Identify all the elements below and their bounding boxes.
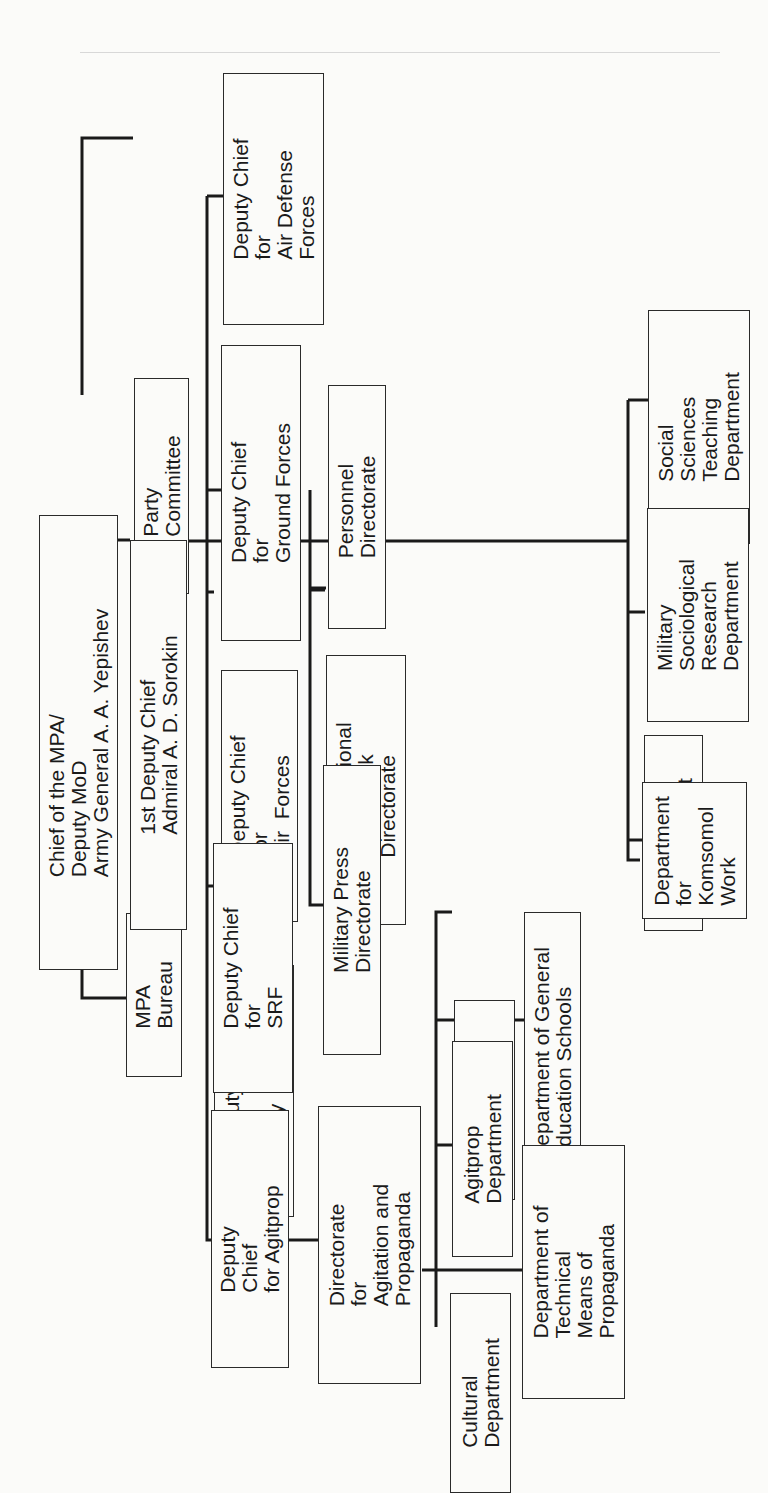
node-label: Deputy Chief for Agitprop xyxy=(217,1185,283,1292)
node-dc-srf: Deputy Chief for SRF xyxy=(213,843,293,1093)
node-mpa-bureau: MPA Bureau xyxy=(126,913,182,1077)
node-label: Chief of the MPA/ Deputy MoD Army Genera… xyxy=(46,608,112,877)
node-label: Deputy Chief for Air Forces xyxy=(227,735,293,856)
node-cultural: Cultural Department xyxy=(450,1293,511,1493)
node-dc-air-defense: Deputy Chief for Air Defense Forces xyxy=(223,73,324,325)
node-komsomol: Department for Komsomol Work xyxy=(642,782,747,919)
node-label: Party Committee xyxy=(140,435,184,537)
node-sociological: Military Sociological Research Departmen… xyxy=(647,508,749,722)
node-label: Department of General Education Schools xyxy=(531,947,575,1161)
node-dc-agitprop: Deputy Chief for Agitprop xyxy=(211,1110,289,1368)
node-label: Cultural Department xyxy=(459,1338,503,1448)
node-label: Deputy Chief for Air Defense Forces xyxy=(230,138,318,259)
node-label: 1st Deputy Chief Admiral A. D. Sorokin xyxy=(137,635,181,835)
node-dir-agitprop: Directorate for Agitation and Propaganda xyxy=(318,1106,421,1384)
node-first-deputy: 1st Deputy Chief Admiral A. D. Sorokin xyxy=(130,540,187,930)
node-dc-ground: Deputy Chief for Ground Forces xyxy=(221,345,301,641)
node-label: Agitprop Department xyxy=(461,1094,505,1204)
node-military-press: Military Press Directorate xyxy=(323,765,381,1055)
node-label: Department for Komsomol Work xyxy=(651,796,739,906)
node-technical-means: Department of Technical Means of Propaga… xyxy=(522,1145,625,1399)
node-label: Directorate for Agitation and Propaganda xyxy=(326,1184,414,1307)
node-label: Military Press Directorate xyxy=(330,847,374,973)
node-chief: Chief of the MPA/ Deputy MoD Army Genera… xyxy=(39,515,118,970)
node-label: MPA Bureau xyxy=(132,961,176,1029)
node-label: Deputy Chief for Ground Forces xyxy=(228,423,294,563)
node-label: Deputy Chief for SRF xyxy=(220,907,286,1028)
node-personnel: Personnel Directorate xyxy=(328,385,386,629)
node-label: Personnel Directorate xyxy=(335,456,379,559)
node-label: Military Sociological Research Departmen… xyxy=(654,559,742,671)
node-agitprop-dept: Agitprop Department xyxy=(452,1041,513,1257)
node-label: Social Sciences Teaching Department xyxy=(655,372,743,482)
node-label: Department of Technical Means of Propaga… xyxy=(530,1205,618,1338)
